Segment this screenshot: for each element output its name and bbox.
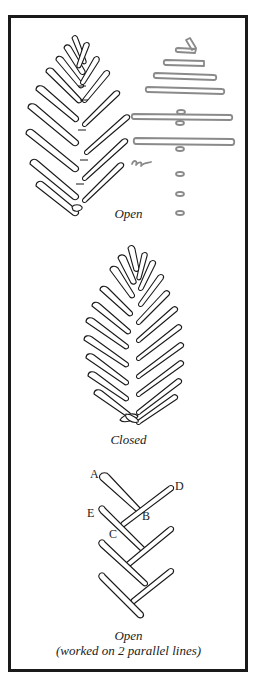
- caption-closed: Closed: [0, 432, 257, 447]
- label-a: A: [90, 468, 99, 480]
- open-fishbone-diagram: [26, 35, 130, 215]
- caption-open-parallel: Open: [0, 628, 257, 643]
- label-d: D: [175, 480, 184, 492]
- stitch-illustration: [0, 0, 257, 679]
- label-c: C: [109, 528, 117, 540]
- guide-lines-diagram: [132, 38, 235, 215]
- subcaption-parallel-lines: (worked on 2 parallel lines): [0, 643, 257, 658]
- label-e: E: [87, 507, 94, 519]
- label-b: B: [142, 510, 150, 522]
- open-parallel-fishbone-diagram: [99, 473, 174, 618]
- caption-open: Open: [0, 206, 257, 221]
- closed-fishbone-diagram: [84, 245, 184, 424]
